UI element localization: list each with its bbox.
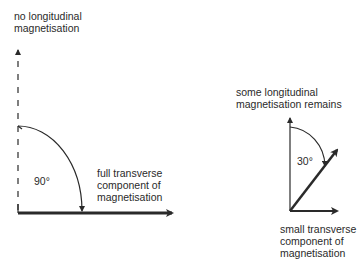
left-angle-label: 90° [34,175,50,187]
left-top-label-line1: no longitudinal [14,10,82,22]
right-bottom-label-line2: component of [280,235,356,247]
left-top-label-line2: magnetisation [14,22,82,34]
right-top-label-line2: magnetisation remains [236,98,342,110]
right-top-label-line1: some longitudinal [236,86,342,98]
left-90-degree-arc [18,126,82,211]
right-bottom-label-line3: magnetisation [280,247,356,259]
right-angle-label: 30° [297,155,313,167]
left-side-label-line2: component of [97,179,162,191]
right-bottom-label: small transverse component of magnetisat… [280,223,356,259]
left-side-label-line1: full transverse [97,167,162,179]
left-top-label: no longitudinal magnetisation [14,10,82,34]
right-bottom-label-line1: small transverse [280,223,356,235]
left-side-label-line3: magnetisation [97,191,162,203]
right-top-label: some longitudinal magnetisation remains [236,86,342,110]
left-side-label: full transverse component of magnetisati… [97,167,162,203]
